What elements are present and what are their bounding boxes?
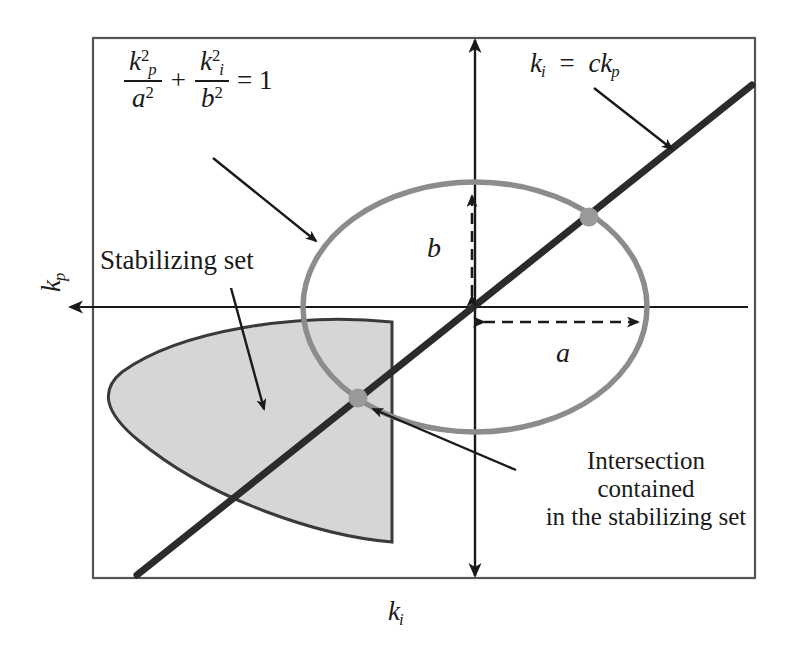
denominator-b-squared: b2 xyxy=(196,83,228,113)
line-equation-pointer xyxy=(594,88,672,149)
intersection-note: Intersection contained in the stabilizin… xyxy=(530,447,762,531)
intersection-note-line-2: contained xyxy=(530,475,762,503)
fraction-bar xyxy=(124,80,162,82)
fraction-bar xyxy=(195,80,229,82)
y-axis-label: kp xyxy=(36,273,69,292)
line-eq-rhs-sub: p xyxy=(611,62,619,81)
figure-canvas: k2p a2 + k2i b2 = 1 ki = ckp Stabilizing… xyxy=(0,0,788,665)
ellipse-equation-pointer xyxy=(213,158,316,241)
line-eq-equals: = xyxy=(559,48,574,78)
semi-axis-a-label: a xyxy=(556,337,570,368)
semi-axis-b-label: b xyxy=(427,232,441,263)
lower-intersection-dot xyxy=(349,389,368,408)
x-axis-label: ki xyxy=(388,596,404,629)
denominator-a-squared: a2 xyxy=(127,83,159,113)
line-eq-lhs-sub: i xyxy=(541,62,546,81)
ellipse-equation: k2p a2 + k2i b2 = 1 xyxy=(122,46,272,114)
numerator-ki-squared: k2i xyxy=(195,46,229,79)
intersection-note-line-1: Intersection xyxy=(530,447,762,475)
line-eq-coefficient: c xyxy=(588,48,600,78)
intersection-note-line-3: in the stabilizing set xyxy=(530,503,762,531)
diagram-svg xyxy=(0,0,788,665)
stabilizing-set-region xyxy=(108,319,392,542)
stabilizing-set-label: Stabilizing set xyxy=(100,245,254,275)
y-axis-label-var: k xyxy=(36,280,66,292)
y-axis-label-sub: p xyxy=(50,273,69,281)
fraction-ki-over-b: k2i b2 xyxy=(195,46,229,114)
fraction-kp-over-a: k2p a2 xyxy=(124,46,162,114)
line-equation: ki = ckp xyxy=(530,48,620,81)
plus-operator: + xyxy=(171,65,186,95)
numerator-kp-squared: k2p xyxy=(124,46,162,79)
equals-one: = 1 xyxy=(237,65,272,95)
intersection-pointer xyxy=(373,409,516,470)
x-axis-label-sub: i xyxy=(399,610,404,629)
upper-intersection-dot xyxy=(580,208,599,227)
